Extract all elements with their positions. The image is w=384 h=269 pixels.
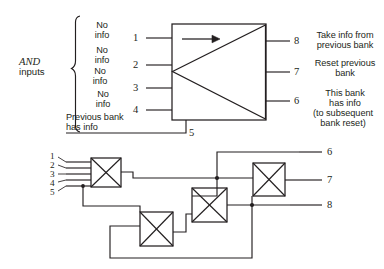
top-input-annotation-3-line2: info <box>76 76 124 86</box>
top-input-annotation-2-line2: info <box>78 55 126 65</box>
top-output-annotation-6-line1: This bank <box>307 88 383 98</box>
top-input-pin-1: 1 <box>133 33 138 44</box>
bottom-pin-tick-2 <box>58 165 66 168</box>
and-inputs-label: inputs <box>19 67 45 77</box>
top-input-pin-4: 4 <box>133 105 138 116</box>
top-input-annotation-3-line1: No <box>76 66 124 76</box>
top-input-annotation-1-line2: info <box>78 30 126 40</box>
top-output-annotation-6-line3: (to subsequent <box>303 108 383 118</box>
top-input-pin-2: 2 <box>133 60 138 71</box>
bottom-input-pin-5: 5 <box>50 188 55 197</box>
bottom-pin-tick-5 <box>58 186 66 191</box>
gate-2-output-net <box>173 214 192 232</box>
top-output-pin-8: 8 <box>294 36 299 47</box>
direction-arrow-head <box>212 35 220 43</box>
top-input-annotation-4-line2: info <box>79 99 127 109</box>
top-input-pin-3: 3 <box>133 83 138 94</box>
top-input-annotation-5-line2: has info <box>66 122 146 132</box>
gate-1-output-net <box>121 172 217 178</box>
top-output-annotation-8-line1: Take info from <box>307 30 383 40</box>
bottom-output-pin-7: 7 <box>327 175 332 186</box>
junction-dot-lead5 <box>81 184 85 188</box>
top-output-annotation-7-line1: Reset previous <box>307 58 383 68</box>
top-output-annotation-6-line2: has info <box>307 98 383 108</box>
bottom-pin-tick-1 <box>58 157 66 162</box>
top-output-pin-7: 7 <box>294 67 299 78</box>
bottom-block-group <box>58 152 322 258</box>
top-input-pin-5: 5 <box>189 128 194 139</box>
top-output-annotation-7-line2: bank <box>307 68 383 78</box>
bottom-output-pin-8: 8 <box>327 200 332 211</box>
top-output-pin-6: 6 <box>294 96 299 107</box>
top-input-annotation-2-line1: No <box>78 45 126 55</box>
gate-1-to-output-6-net <box>217 152 299 178</box>
bottom-output-pin-6: 6 <box>327 147 332 158</box>
lead5-branch-to-gate-2 <box>83 186 140 212</box>
bottom-pin-tick-4 <box>58 180 66 182</box>
top-output-annotation-8-line2: previous bank <box>307 40 383 50</box>
top-input-annotation-1-line1: No <box>78 20 126 30</box>
figure-canvas: AND inputs No info No info No info No in… <box>0 0 384 269</box>
gate-1-to-gate-3-net <box>192 178 217 196</box>
top-output-annotation-6-line4: bank reset) <box>303 118 383 128</box>
top-input-annotation-4-line1: No <box>79 89 127 99</box>
